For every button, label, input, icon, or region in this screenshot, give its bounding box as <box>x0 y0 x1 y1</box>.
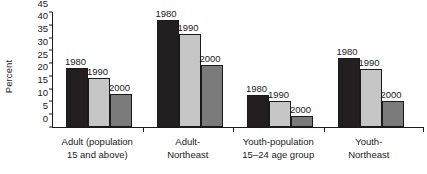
bar-group: 198019902000 <box>157 12 223 127</box>
y-axis-tick-label: 10 <box>37 88 48 98</box>
y-axis-tick-label: 15 <box>37 75 48 85</box>
y-axis-tick-label: 40 <box>37 12 48 22</box>
bar <box>382 101 404 127</box>
x-axis-group-tick <box>143 128 144 132</box>
bar <box>88 78 110 127</box>
bar <box>157 20 179 127</box>
y-axis-tick-label: 0 <box>43 114 48 124</box>
bar <box>201 65 223 127</box>
bar-value-label: 1990 <box>268 90 289 100</box>
bar-value-label: 1980 <box>337 47 358 57</box>
bar <box>269 101 291 127</box>
bar-value-label: 2000 <box>381 90 402 100</box>
bar <box>110 94 132 127</box>
y-axis-tick-mark <box>49 24 52 25</box>
y-axis-tick-label: 25 <box>37 50 48 60</box>
bar <box>179 34 201 127</box>
y-axis-tick-label: 20 <box>37 63 48 73</box>
y-axis-tick-label: 30 <box>37 37 48 47</box>
y-axis-title: Percent <box>2 36 16 116</box>
x-axis-category-label: Youth-Northeast <box>324 136 415 161</box>
bar-value-label: 2000 <box>200 54 221 64</box>
y-axis-tick-mark <box>49 88 52 89</box>
bar-chart: Percent 051015202530354045 1980199020001… <box>0 0 427 174</box>
y-axis-tick-mark <box>49 63 52 64</box>
x-axis-category-label-line: Youth- <box>324 136 415 149</box>
x-axis-category-label-line: 15 and above) <box>52 149 143 162</box>
bar <box>66 68 88 127</box>
x-axis-category-label-line: 15–24 age group <box>233 149 324 162</box>
x-axis-category-label-line: Northeast <box>324 149 415 162</box>
bar-value-label: 1980 <box>156 9 177 19</box>
bar-group: 198019902000 <box>338 12 404 127</box>
bar <box>338 58 360 127</box>
bar-value-label: 1980 <box>65 57 86 67</box>
x-axis-category-label: Adult-Northeast <box>143 136 234 161</box>
x-axis-group-tick <box>233 128 234 132</box>
x-axis-category-label: Adult (population15 and above) <box>52 136 143 161</box>
plot-area: 051015202530354045 198019902000198019902… <box>52 12 414 128</box>
bar-value-label: 1990 <box>359 58 380 68</box>
bar-group: 198019902000 <box>247 12 313 127</box>
x-axis-category-label-line: Adult (population <box>52 136 143 149</box>
x-axis-category-labels: Adult (population15 and above)Adult-Nort… <box>52 136 414 170</box>
bar-value-label: 2000 <box>109 83 130 93</box>
x-axis-category-label-line: Youth-population <box>233 136 324 149</box>
bar-value-label: 1990 <box>178 23 199 33</box>
x-axis-category-label-line: Northeast <box>143 149 234 162</box>
y-axis-tick-mark <box>49 101 52 102</box>
bar-value-label: 2000 <box>290 105 311 115</box>
y-axis-tick-label: 45 <box>37 0 48 8</box>
bar <box>291 116 313 127</box>
y-axis-tick-label: 35 <box>37 24 48 34</box>
bar-value-label: 1980 <box>246 84 267 94</box>
x-axis-group-tick <box>324 128 325 132</box>
y-axis-line <box>52 12 53 128</box>
y-axis-title-text: Percent <box>4 59 15 92</box>
x-axis-category-label-line: Adult- <box>143 136 234 149</box>
x-axis-end-tick <box>423 128 424 132</box>
y-axis-tick-mark <box>49 37 52 38</box>
bar-group: 198019902000 <box>66 12 132 127</box>
x-axis-category-label: Youth-population15–24 age group <box>233 136 324 161</box>
bar-value-label: 1990 <box>87 67 108 77</box>
bar <box>360 69 382 127</box>
y-axis-tick-mark <box>49 127 52 128</box>
y-axis-tick-mark <box>49 114 52 115</box>
y-axis-tick-label: 5 <box>43 101 48 111</box>
y-axis-tick-mark <box>49 50 52 51</box>
y-axis-tick-mark <box>49 12 52 13</box>
bar <box>247 95 269 127</box>
y-axis-tick-mark <box>49 75 52 76</box>
x-axis-line <box>52 127 424 128</box>
